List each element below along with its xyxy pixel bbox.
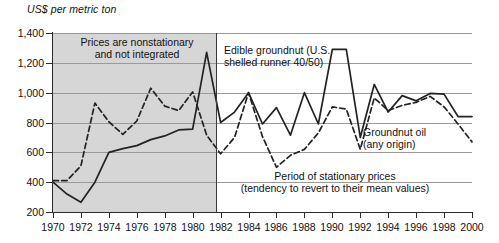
- y-tick: [46, 182, 52, 183]
- annotation-oil-line1: Groundnut oil: [363, 126, 426, 138]
- y-tick-label: 1,400: [0, 28, 44, 38]
- annotation-nonstationary: Prices are nonstationary and not integra…: [62, 36, 212, 61]
- annotation-stationary-line1: Period of stationary prices: [274, 170, 395, 182]
- y-tick-label: 200: [0, 207, 44, 217]
- annotation-nonstationary-line1: Prices are nonstationary: [80, 36, 193, 48]
- x-tick: [249, 213, 250, 218]
- x-tick: [416, 213, 417, 218]
- y-tick-label: 800: [0, 118, 44, 128]
- x-tick: [444, 213, 445, 218]
- x-tick: [137, 213, 138, 218]
- y-tick: [46, 152, 52, 153]
- annotation-groundnut-oil: Groundnut oil (any origin): [363, 126, 473, 151]
- x-tick: [221, 213, 222, 218]
- x-tick: [332, 213, 333, 218]
- annotation-edible-line2: shelled runner 40/50): [224, 56, 323, 68]
- annotation-stationary-line2: (tendency to revert to their mean values…: [241, 182, 430, 194]
- chart-figure: US$ per metric ton 2004006008001,0001,20…: [0, 0, 499, 243]
- x-tick-label: 2000: [452, 222, 492, 233]
- y-axis-line: [52, 32, 53, 213]
- annotation-oil-line2: (any origin): [363, 138, 416, 150]
- x-tick: [81, 213, 82, 218]
- y-tick-label: 400: [0, 177, 44, 187]
- x-tick: [276, 213, 277, 218]
- y-tick: [46, 63, 52, 64]
- annotation-edible-groundnut: Edible groundnut (U.S. shelled runner 40…: [224, 44, 354, 69]
- y-tick-label: 600: [0, 147, 44, 157]
- annotation-nonstationary-line2: and not integrated: [95, 48, 180, 60]
- x-tick: [193, 213, 194, 218]
- y-tick: [46, 33, 52, 34]
- x-tick: [53, 213, 54, 218]
- x-tick: [360, 213, 361, 218]
- y-tick-label: 1,000: [0, 88, 44, 98]
- x-tick: [304, 213, 305, 218]
- y-tick: [46, 123, 52, 124]
- y-axis-title: US$ per metric ton: [27, 3, 116, 15]
- x-tick: [165, 213, 166, 218]
- x-tick: [109, 213, 110, 218]
- annotation-stationary: Period of stationary prices (tendency to…: [200, 170, 470, 195]
- annotation-edible-line1: Edible groundnut (U.S.: [224, 44, 330, 56]
- x-axis-line: [52, 212, 473, 213]
- y-tick-label: 1,200: [0, 58, 44, 68]
- y-tick: [46, 212, 52, 213]
- y-tick: [46, 93, 52, 94]
- x-tick: [388, 213, 389, 218]
- x-tick: [472, 213, 473, 218]
